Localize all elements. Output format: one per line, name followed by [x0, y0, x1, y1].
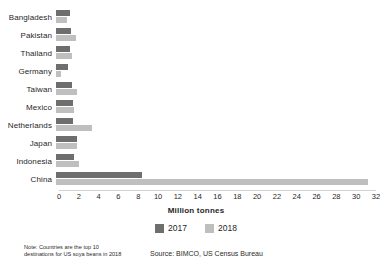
bar-2017-indonesia[interactable] — [56, 154, 74, 160]
x-tick-label: 18 — [233, 192, 241, 201]
legend-item-2017[interactable]: 2017 — [155, 224, 187, 233]
x-tick-label: 20 — [253, 192, 261, 201]
x-tick-label: 14 — [194, 192, 202, 201]
category-label-germany: Germany — [0, 67, 56, 76]
bar-2017-germany[interactable] — [56, 64, 68, 70]
bar-2018-japan[interactable] — [56, 143, 77, 149]
bar-group — [56, 99, 386, 115]
category-label-japan: Japan — [0, 139, 56, 148]
category-label-netherlands: Netherlands — [0, 121, 56, 130]
x-tick-label: 4 — [97, 192, 101, 201]
x-tick-label: 12 — [174, 192, 182, 201]
bar-2018-thailand[interactable] — [56, 53, 72, 59]
chart-legend: 2017 2018 — [0, 224, 392, 233]
bar-2018-netherlands[interactable] — [56, 125, 92, 131]
x-tick-label: 8 — [136, 192, 140, 201]
legend-swatch-icon-2018 — [205, 224, 214, 233]
bar-2017-netherlands[interactable] — [56, 118, 73, 124]
bar-group — [56, 45, 386, 61]
category-label-thailand: Thailand — [0, 49, 56, 58]
category-label-indonesia: Indonesia — [0, 157, 56, 166]
bar-2018-bangladesh[interactable] — [56, 17, 67, 23]
x-tick-label: 6 — [116, 192, 120, 201]
chart-source: Source: BIMCO, US Census Bureau — [150, 249, 263, 258]
x-tick-label: 16 — [213, 192, 221, 201]
x-tick-label: 0 — [57, 192, 61, 201]
x-tick-label: 28 — [332, 192, 340, 201]
bar-row: Pakistan — [0, 26, 392, 44]
bar-2017-japan[interactable] — [56, 136, 77, 142]
chart-note-line-1: Note: Countries are the top 10 — [24, 244, 159, 251]
bar-2018-taiwan[interactable] — [56, 89, 77, 95]
x-tick-label: 26 — [312, 192, 320, 201]
x-tick-label: 22 — [273, 192, 281, 201]
bar-2017-bangladesh[interactable] — [56, 10, 70, 16]
x-tick-label: 24 — [293, 192, 301, 201]
bar-group — [56, 9, 386, 25]
bar-rows: BangladeshPakistanThailandGermanyTaiwanM… — [0, 8, 392, 188]
category-label-pakistan: Pakistan — [0, 31, 56, 40]
bar-group — [56, 81, 386, 97]
category-label-bangladesh: Bangladesh — [0, 13, 56, 22]
x-tick-label: 10 — [154, 192, 162, 201]
bar-row: Germany — [0, 62, 392, 80]
bar-row: Taiwan — [0, 80, 392, 98]
bar-2018-mexico[interactable] — [56, 107, 74, 113]
bar-row: Japan — [0, 134, 392, 152]
bar-row: Indonesia — [0, 152, 392, 170]
bar-2018-china[interactable] — [56, 179, 368, 185]
bar-2017-pakistan[interactable] — [56, 28, 71, 34]
category-label-taiwan: Taiwan — [0, 85, 56, 94]
bar-group — [56, 63, 386, 79]
bar-2017-taiwan[interactable] — [56, 82, 72, 88]
legend-label-2017: 2017 — [168, 224, 187, 233]
bar-2018-indonesia[interactable] — [56, 161, 79, 167]
x-tick-label: 30 — [352, 192, 360, 201]
bar-group — [56, 117, 386, 133]
x-axis-line — [59, 190, 376, 191]
category-label-mexico: Mexico — [0, 103, 56, 112]
x-tick-label: 2 — [77, 192, 81, 201]
bar-2018-germany[interactable] — [56, 71, 61, 77]
x-axis-ticks: 02468101214161820222426283032 — [0, 192, 392, 204]
bar-group — [56, 153, 386, 169]
legend-swatch-icon-2017 — [155, 224, 164, 233]
bar-2017-thailand[interactable] — [56, 46, 70, 52]
legend-label-2018: 2018 — [218, 224, 237, 233]
chart-note-line-2: destinations for US soya beans in 2018 — [24, 251, 159, 258]
category-label-china: China — [0, 175, 56, 184]
bar-row: Mexico — [0, 98, 392, 116]
bar-group — [56, 27, 386, 43]
bar-2017-mexico[interactable] — [56, 100, 73, 106]
chart-note: Note: Countries are the top 10 destinati… — [24, 244, 159, 259]
bar-2018-pakistan[interactable] — [56, 35, 76, 41]
x-tick-label: 32 — [372, 192, 380, 201]
bar-group — [56, 135, 386, 151]
plot-area: BangladeshPakistanThailandGermanyTaiwanM… — [0, 8, 392, 188]
legend-item-2018[interactable]: 2018 — [205, 224, 237, 233]
bar-row: China — [0, 170, 392, 188]
bar-2017-china[interactable] — [56, 172, 142, 178]
bar-chart: BangladeshPakistanThailandGermanyTaiwanM… — [0, 0, 392, 274]
bar-row: Thailand — [0, 44, 392, 62]
bar-row: Bangladesh — [0, 8, 392, 26]
bar-group — [56, 171, 386, 187]
bar-row: Netherlands — [0, 116, 392, 134]
x-axis-label: Million tonnes — [0, 206, 392, 215]
